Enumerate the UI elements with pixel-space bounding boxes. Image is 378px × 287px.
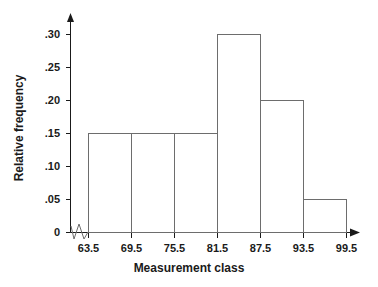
x-tick-label-63-5: 63.5 <box>69 243 109 254</box>
x-tick-label-93-5: 93.5 <box>284 243 324 254</box>
y-axis-ticks <box>66 35 71 233</box>
x-tick-label-75-5: 75.5 <box>155 243 195 254</box>
bar-75.5-81.5 <box>175 134 218 233</box>
x-axis-arrow-icon <box>350 229 360 237</box>
y-tick-label-020: .20 <box>30 95 60 106</box>
y-tick-label-015: .15 <box>30 128 60 139</box>
x-tick-label-81-5: 81.5 <box>198 243 238 254</box>
y-axis-arrow-icon <box>67 13 74 22</box>
y-axis-title: Relative frequency <box>13 48 25 208</box>
x-tick-label-99-5: 99.5 <box>327 243 367 254</box>
y-tick-label-030: .30 <box>30 29 60 40</box>
axis-break-icon <box>71 224 88 239</box>
y-tick-label-025: .25 <box>30 62 60 73</box>
bar-87.5-93.5 <box>261 101 304 233</box>
histogram-chart: .30 .25 .20 .15 .10 .05 0 63.5 69.5 75.5… <box>0 0 378 287</box>
y-tick-label-010: .10 <box>30 161 60 172</box>
x-axis-ticks <box>89 233 347 239</box>
y-tick-label-0: 0 <box>30 227 60 238</box>
x-tick-label-87-5: 87.5 <box>241 243 281 254</box>
histogram-bars <box>89 35 347 233</box>
y-tick-label-005: .05 <box>30 194 60 205</box>
bar-69.5-75.5 <box>132 134 175 233</box>
x-axis-title: Measurement class <box>0 262 378 274</box>
bar-93.5-99.5 <box>304 200 347 233</box>
bar-81.5-87.5 <box>218 35 261 233</box>
bar-63.5-69.5 <box>89 134 132 233</box>
x-tick-label-69-5: 69.5 <box>112 243 152 254</box>
